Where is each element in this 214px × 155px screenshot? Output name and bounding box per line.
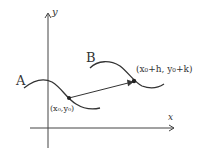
point-start	[67, 96, 71, 100]
curve-a-label: A	[16, 73, 25, 88]
diagram-canvas	[0, 0, 214, 155]
y-axis-label: y	[52, 6, 58, 17]
end-point-label: (x₀+h, y₀+k)	[136, 64, 192, 74]
x-axis-label: x	[168, 112, 173, 122]
point-end	[132, 79, 136, 83]
displacement-arrow	[69, 82, 132, 98]
curve-b-label: B	[86, 50, 96, 65]
start-point-label: (x₀,y₀)	[50, 104, 74, 113]
